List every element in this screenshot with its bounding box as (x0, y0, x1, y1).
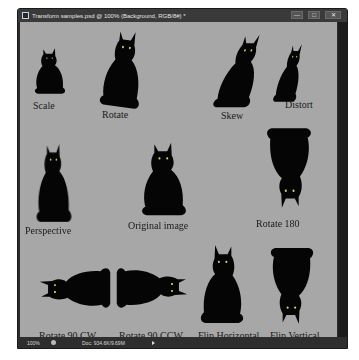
label-rotate: Rotate (102, 109, 128, 120)
image-canvas[interactable]: Scale Rotate Skew Distort Perspective Or… (20, 22, 337, 338)
cat-rotate-90-ccw-image (114, 262, 190, 314)
label-original-image: Original image (128, 220, 188, 231)
label-skew: Skew (221, 110, 243, 121)
document-window: Transform samples.psd @ 100% (Background… (17, 8, 348, 349)
cat-distort-image (268, 42, 313, 104)
cat-skew-image (205, 32, 278, 110)
label-scale: Scale (33, 100, 55, 111)
cat-scale-image (30, 44, 70, 98)
label-distort: Distort (285, 99, 313, 110)
minimize-button[interactable]: — (291, 11, 303, 19)
status-menu-arrow-icon[interactable] (152, 341, 155, 345)
cat-rotate-image (93, 25, 156, 113)
minimize-icon: — (294, 12, 300, 18)
close-icon: ✕ (331, 12, 336, 18)
zoom-level[interactable]: 100% (27, 340, 49, 346)
label-perspective: Perspective (25, 225, 71, 236)
cat-flip-horizontal-image (194, 242, 250, 326)
cat-perspective-image (31, 141, 78, 225)
cat-rotate-180-image (260, 125, 318, 211)
document-size: Doc: 934.6K/9.69M (82, 340, 142, 346)
cat-rotate-90-cw-image (37, 262, 113, 314)
close-button[interactable]: ✕ (325, 11, 341, 19)
maximize-icon: □ (312, 12, 316, 18)
photoshop-icon (22, 12, 29, 19)
title-bar[interactable]: Transform samples.psd @ 100% (Background… (18, 9, 347, 22)
window-title: Transform samples.psd @ 100% (Background… (32, 13, 186, 19)
cat-original-image (135, 140, 193, 218)
status-bar: 100% Doc: 934.6K/9.69M (18, 337, 347, 348)
status-info-icon[interactable] (51, 340, 56, 345)
maximize-button[interactable]: □ (308, 11, 320, 19)
label-rotate-180: Rotate 180 (256, 218, 300, 229)
cat-flip-vertical-image (264, 245, 320, 327)
vertical-scrollbar[interactable] (338, 22, 347, 338)
